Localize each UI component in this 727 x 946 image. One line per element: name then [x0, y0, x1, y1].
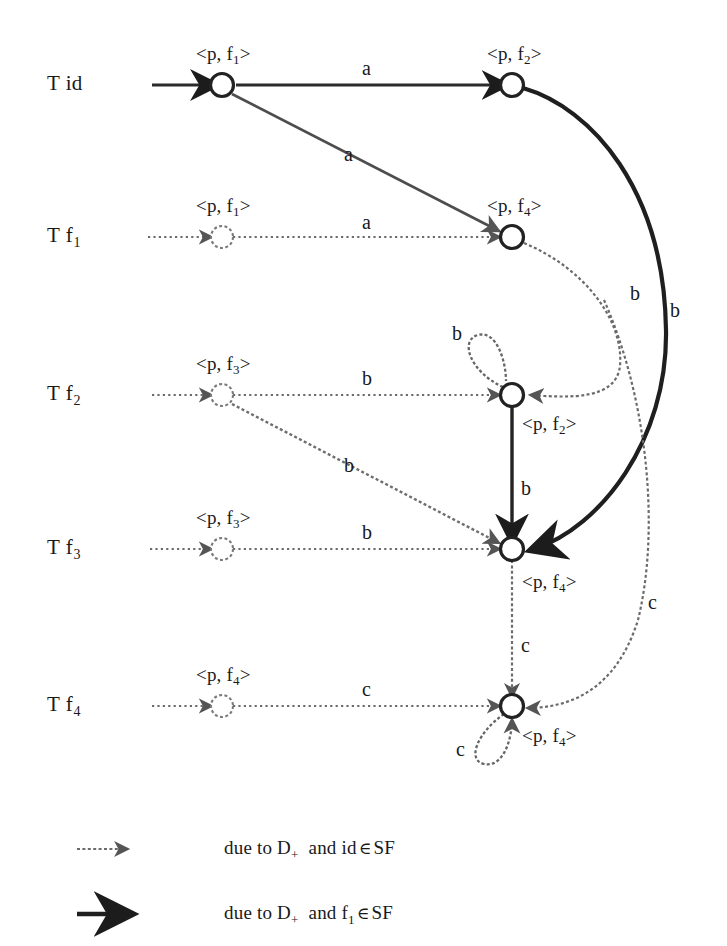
legend-row-thin-text: due to D+ and id∈SF	[224, 838, 395, 861]
state-label-f2-f3: <p, f3>	[196, 354, 251, 376]
edge-label-a-f1: a	[362, 212, 371, 232]
edge-label-b-f2: b	[362, 368, 372, 388]
state-node-f1-f4	[501, 226, 524, 249]
self-loop-b-f2	[469, 334, 506, 387]
edge-label-b-thin: b	[630, 283, 640, 303]
edge-c-thin-curve-f3-to-f4	[527, 300, 649, 708]
legend-row-thick-text: due to D+ and f1∈SF	[224, 903, 393, 926]
state-label-id-f2: <p, f2>	[487, 44, 542, 66]
state-label-f1-f1: <p, f1>	[196, 196, 251, 218]
edge-label-b-vert: b	[521, 478, 531, 498]
state-node-f2-f3	[211, 384, 233, 406]
state-label-f3-f4: <p, f4>	[522, 572, 577, 594]
state-node-f4-f4b	[501, 695, 524, 718]
row-label-t-f2: T f2	[47, 383, 81, 408]
edge-label-b-f3: b	[362, 522, 372, 542]
edge-label-b-diag: b	[344, 455, 354, 475]
edge-label-b-loop2: b	[452, 323, 462, 343]
diagram-vector-layer	[0, 0, 727, 946]
state-label-f3-f3: <p, f3>	[196, 508, 251, 530]
state-label-f4-f4b: <p, f4>	[522, 726, 577, 748]
row-label-t-f4: T f4	[47, 694, 81, 719]
state-node-f3-f4	[501, 538, 524, 561]
edge-label-c-right: c	[648, 592, 657, 612]
transition-diagram-figure: T id T f1 T f2 T f3 T f4 <p, f1> <p, f2>…	[0, 0, 727, 946]
row-label-t-f1: T f1	[47, 225, 81, 250]
state-node-f1-f1	[211, 226, 233, 248]
edge-b-thick-curve-id-to-f3	[523, 88, 666, 549]
state-node-id-f1	[211, 74, 234, 97]
state-label-f4-f4a: <p, f4>	[196, 665, 251, 687]
edge-label-c-f4: c	[362, 679, 371, 699]
row-label-t-id: T id	[47, 73, 83, 98]
state-node-f3-f3	[211, 538, 233, 560]
state-label-id-f1: <p, f1>	[196, 44, 251, 66]
edge-label-b-thick: b	[670, 300, 680, 320]
edge-label-a-top: a	[362, 58, 371, 78]
state-label-f1-f4: <p, f4>	[487, 196, 542, 218]
edge-label-a-diag: a	[344, 144, 353, 164]
state-node-f4-f4a	[211, 695, 233, 717]
state-label-f2-f2: <p, f2>	[522, 414, 577, 436]
row-label-t-f3: T f3	[47, 537, 81, 562]
edge-label-c-loop4: c	[456, 739, 465, 759]
edge-label-c-vert: c	[521, 635, 530, 655]
state-node-f2-f2	[501, 384, 524, 407]
state-node-id-f2	[501, 74, 524, 97]
self-loop-c-f4	[475, 714, 512, 764]
edge-b-thin-curve-f1-to-f2	[524, 243, 620, 397]
